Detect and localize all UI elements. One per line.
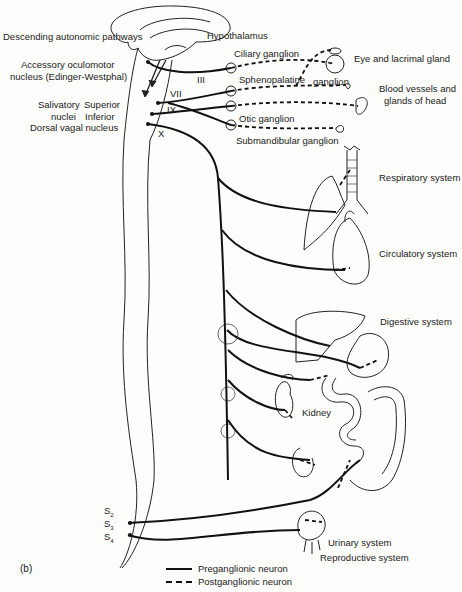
bladder [298, 511, 325, 540]
legend-preganglionic-label: Preganglionic neuron [198, 563, 288, 574]
label-submandibular-ganglion: Submandibular ganglion [236, 135, 338, 146]
stomach [347, 333, 389, 377]
legend-postganglionic: Postganglionic neuron [166, 576, 292, 587]
label-hypothalamus: Hypothalamus [207, 30, 268, 41]
legend-preganglionic: Preganglionic neuron [166, 563, 288, 574]
label-blood-vessels: Blood vessels and [379, 83, 456, 94]
sacral-outflow [128, 460, 360, 523]
label-ciliary-ganglion: Ciliary ganglion [234, 48, 299, 59]
label-glands-of-head: glands of head [384, 95, 446, 106]
solid-line-swatch [166, 568, 192, 570]
label-dorsal-vagal: Dorsal vagal nucleus [30, 122, 118, 133]
label-nuclei: nuclei [51, 111, 76, 122]
nerve-vii: VII [170, 88, 182, 99]
label-inferior: Inferior [85, 111, 115, 122]
label-salivatory: Salivatory [38, 99, 80, 110]
label-eye-lacrimal: Eye and lacrimal gland [354, 53, 450, 64]
kidney-shape [275, 382, 292, 418]
label-sphenopalatine: Sphenopalatine [239, 74, 305, 85]
label-circulatory: Circulatory system [379, 248, 457, 259]
label-descending-pathways: Descending autonomic pathways [3, 31, 142, 42]
label-sphenopalatine-ganglion: ganglion [313, 76, 349, 87]
spinal-cord-left [120, 48, 138, 568]
label-otic-ganglion: Otic ganglion [239, 113, 294, 124]
nerve-x: X [158, 128, 164, 139]
label-digestive: Digestive system [380, 316, 452, 327]
dashed-line-swatch [166, 581, 192, 583]
legend-postganglionic-label: Postganglionic neuron [198, 576, 292, 587]
small-intestine [322, 378, 364, 466]
label-respiratory: Respiratory system [379, 172, 460, 183]
label-urinary: Urinary system [328, 537, 391, 548]
label-accessory-oculomotor: Accessory oculomotor [21, 59, 114, 70]
label-superior: Superior [84, 99, 120, 110]
spinal-cord-right [122, 60, 172, 568]
label-edinger-westphal: nucleus (Edinger-Westphal) [10, 71, 127, 82]
nerve-iii: III [197, 74, 205, 85]
figure-label: (b) [20, 563, 32, 574]
label-reproductive: Reproductive system [320, 552, 409, 563]
label-s4: S4 [104, 531, 114, 547]
lung [304, 176, 345, 250]
nerve-ix: IX [167, 104, 176, 115]
heart [333, 218, 369, 284]
label-kidney: Kidney [302, 407, 331, 418]
vagus-trunk [148, 124, 228, 480]
